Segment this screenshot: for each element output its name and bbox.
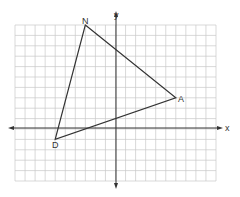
x-axis-left-arrow-icon xyxy=(8,126,14,130)
x-axis-label: x xyxy=(225,123,230,133)
vertex-label-d: D xyxy=(52,140,59,150)
y-axis-bottom-arrow-icon xyxy=(114,183,118,189)
vertex-label-n: N xyxy=(82,16,89,26)
x-axis: x xyxy=(8,123,230,133)
y-axis: y xyxy=(114,10,119,189)
vertex-label-a: A xyxy=(178,94,184,104)
coordinate-plane: x y N A D xyxy=(0,0,240,197)
vertex-labels: N A D xyxy=(52,16,184,150)
x-axis-right-arrow-icon xyxy=(217,126,223,130)
y-axis-label: y xyxy=(114,10,119,20)
